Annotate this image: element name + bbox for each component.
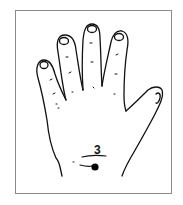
pinky-nail [40,62,48,69]
acupoint-marker [91,163,98,170]
knuckle-marks [50,43,118,108]
index-nail [115,34,124,41]
middle-finger-outline [82,24,102,90]
index-finger-outline [102,31,128,111]
thumb-nail [156,93,160,103]
middle-nail [88,26,97,33]
ring-nail [60,38,69,45]
hand-illustration [0,0,183,205]
thumb-outline [122,87,163,176]
point-number-label: 3 [94,144,101,156]
wrist-crease-line-lower [80,165,92,166]
